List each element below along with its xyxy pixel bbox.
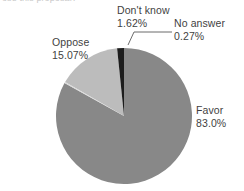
slice-label-no-answer-value: 0.27% — [174, 30, 225, 43]
slice-label-oppose-name: Oppose — [52, 36, 89, 48]
no-answer-callout-line — [128, 32, 172, 45]
slice-label-oppose: Oppose 15.07% — [52, 36, 89, 61]
slice-label-dont-know-name: Don't know — [117, 4, 170, 16]
slice-label-oppose-value: 15.07% — [52, 49, 89, 62]
slice-label-favor-value: 83.0% — [196, 117, 226, 130]
slice-label-favor: Favor 83.0% — [196, 104, 226, 129]
slice-label-no-answer: No answer 0.27% — [174, 17, 225, 42]
slice-label-favor-name: Favor — [196, 104, 223, 116]
slice-label-dont-know: Don't know 1.62% — [117, 4, 170, 29]
slice-label-dont-know-value: 1.62% — [117, 17, 170, 30]
slice-label-no-answer-name: No answer — [174, 17, 225, 29]
pie-chart-figure: ose this proposal? Don't know 1.62% No a… — [0, 0, 244, 191]
